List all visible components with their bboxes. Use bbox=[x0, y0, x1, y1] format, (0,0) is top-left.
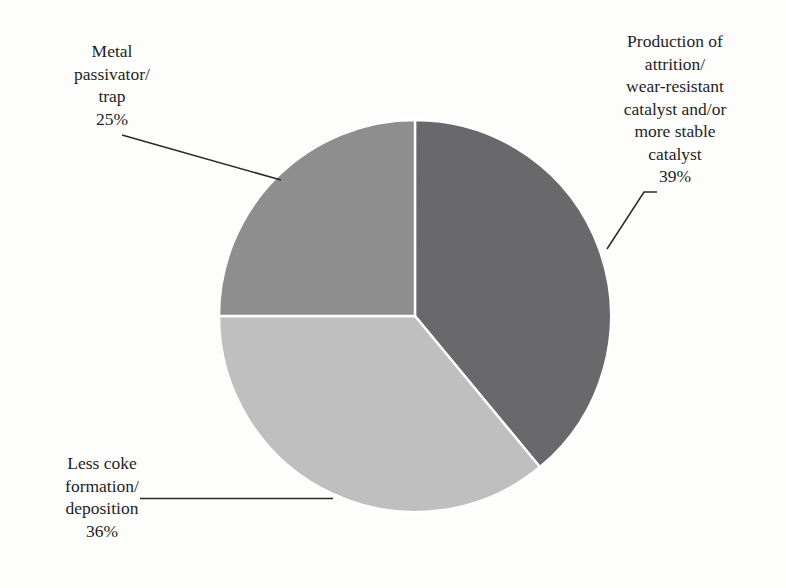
label-line: formation/ bbox=[65, 476, 139, 496]
label-line: more stable bbox=[634, 121, 715, 141]
pie-slice-metal-passivator-trap[interactable] bbox=[219, 120, 415, 316]
label-line: deposition bbox=[66, 498, 139, 518]
leader-line-attrition-resistant-catalyst bbox=[607, 192, 657, 249]
label-line: catalyst bbox=[648, 144, 701, 164]
label-line: attrition/ bbox=[645, 54, 705, 74]
label-line: Metal bbox=[92, 41, 133, 61]
pie-chart-figure: Production of attrition/ wear-resistant … bbox=[0, 0, 786, 588]
pie-label-less-coke-formation: Less coke formation/ deposition 36% bbox=[14, 452, 190, 542]
label-line: Production of bbox=[627, 31, 723, 51]
leader-line-metal-passivator-trap bbox=[122, 135, 281, 180]
pie-value-metal-passivator-trap: 25% bbox=[24, 108, 200, 131]
pie-value-attrition-resistant-catalyst: 39% bbox=[575, 165, 775, 188]
label-line: Less coke bbox=[67, 453, 137, 473]
label-line: catalyst and/or bbox=[624, 99, 727, 119]
label-line: trap bbox=[98, 86, 125, 106]
pie-value-less-coke-formation: 36% bbox=[14, 520, 190, 543]
label-line: passivator/ bbox=[74, 64, 150, 84]
label-line: wear-resistant bbox=[626, 76, 724, 96]
pie-label-metal-passivator-trap: Metal passivator/ trap 25% bbox=[24, 40, 200, 130]
pie-label-attrition-resistant-catalyst: Production of attrition/ wear-resistant … bbox=[575, 30, 775, 188]
